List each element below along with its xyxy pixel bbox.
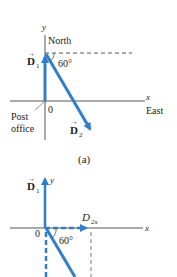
d1-label: → D 1: [27, 50, 40, 70]
north-label: North: [48, 35, 71, 46]
svg-text:2x: 2x: [91, 218, 99, 226]
x-axis-label: x: [145, 92, 150, 102]
svg-text:D: D: [27, 55, 35, 67]
figure-a: y North 60° x East 0 Post office → D 1 →…: [10, 22, 163, 166]
x-axis-label: x: [144, 223, 149, 233]
east-label: East: [146, 105, 163, 116]
angle-label: 60°: [59, 235, 73, 246]
svg-text:2: 2: [79, 131, 83, 139]
figure-b: y x 0 60° → D 1 D 2x: [10, 175, 149, 277]
origin-label: 0: [35, 228, 40, 239]
d2-label: → D 2: [70, 118, 83, 139]
y-axis-label: y: [49, 175, 54, 185]
svg-text:1: 1: [36, 62, 40, 70]
vector-diagram: y North 60° x East 0 Post office → D 1 →…: [0, 0, 177, 277]
svg-text:D: D: [27, 180, 35, 192]
y-axis-label: y: [41, 22, 46, 32]
svg-text:D: D: [81, 211, 90, 223]
post-office-leader: [35, 101, 45, 110]
d2x-label: D 2x: [81, 211, 99, 226]
angle-label: 60°: [58, 58, 72, 69]
svg-text:D: D: [70, 124, 78, 136]
post-office-label-line2: office: [11, 123, 35, 134]
d1-label: → D 1: [27, 175, 40, 195]
svg-text:1: 1: [36, 187, 40, 195]
origin-label: 0: [48, 104, 53, 115]
post-office-label-line1: Post: [11, 111, 28, 122]
caption-a: (a): [78, 153, 91, 166]
